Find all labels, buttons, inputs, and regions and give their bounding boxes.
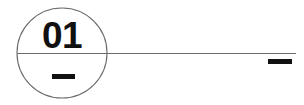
technical-drawing-callout: 01 <box>0 0 304 105</box>
balloon-lower-dash-icon <box>52 74 75 79</box>
callout-number-label: 01 <box>42 15 82 56</box>
leader-end-dash-icon <box>268 59 292 64</box>
drawing-canvas: 01 <box>0 0 304 105</box>
